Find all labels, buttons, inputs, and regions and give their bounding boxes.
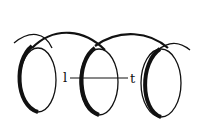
coil-loop-1-thick [20, 46, 38, 112]
coil-diagram [0, 0, 204, 135]
label-t: t [130, 72, 135, 85]
label-l: l [63, 71, 67, 84]
coil-loop-3-thick [145, 49, 161, 117]
coil-loop-2-thick [82, 48, 99, 115]
coil-top-arc-3 [95, 34, 168, 48]
